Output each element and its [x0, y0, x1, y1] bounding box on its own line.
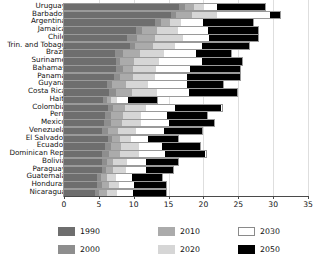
bar-segment-1990[interactable]: [64, 151, 102, 157]
bar-segment-2030[interactable]: [156, 66, 190, 72]
legend-item-1990[interactable]: 1990: [58, 226, 100, 237]
bar-segment-2020[interactable]: [120, 151, 139, 157]
bar-segment-2020[interactable]: [194, 4, 204, 10]
bar-segment-2030[interactable]: [181, 19, 203, 25]
stacked-bar[interactable]: [64, 151, 206, 157]
bar-segment-1990[interactable]: [64, 35, 127, 41]
bar-segment-2010[interactable]: [113, 105, 125, 111]
bar-segment-2020[interactable]: [120, 136, 131, 142]
stacked-bar[interactable]: [64, 12, 280, 18]
bar-segment-2020[interactable]: [126, 81, 148, 87]
bar-segment-1990[interactable]: [64, 66, 116, 72]
stacked-bar[interactable]: [64, 66, 240, 72]
stacked-bar[interactable]: [64, 89, 237, 95]
bar-segment-2000[interactable]: [109, 89, 117, 95]
bar-segment-2010[interactable]: [106, 167, 113, 173]
bar-segment-1990[interactable]: [64, 112, 105, 118]
bar-segment-2010[interactable]: [123, 66, 133, 72]
bar-segment-2030[interactable]: [126, 167, 146, 173]
bar-segment-1990[interactable]: [64, 136, 108, 142]
bar-segment-2020[interactable]: [109, 182, 119, 188]
bar-segment-2050[interactable]: [132, 174, 162, 180]
bar-segment-1990[interactable]: [64, 174, 97, 180]
bar-segment-2050[interactable]: [169, 120, 214, 126]
bar-segment-2030[interactable]: [117, 97, 128, 103]
bar-segment-2020[interactable]: [133, 74, 155, 80]
stacked-bar[interactable]: [64, 128, 202, 134]
stacked-bar[interactable]: [64, 81, 223, 87]
bar-segment-1990[interactable]: [64, 105, 108, 111]
bar-segment-2050[interactable]: [190, 66, 239, 72]
bar-segment-2050[interactable]: [270, 12, 280, 18]
stacked-bar[interactable]: [64, 174, 162, 180]
bar-segment-2030[interactable]: [148, 81, 186, 87]
bar-segment-2030[interactable]: [131, 136, 148, 142]
bar-segment-2010[interactable]: [112, 136, 120, 142]
bar-segment-2010[interactable]: [107, 159, 114, 165]
legend-item-2020[interactable]: 2020: [158, 244, 200, 255]
stacked-bar[interactable]: [64, 143, 200, 149]
bar-segment-2030[interactable]: [204, 4, 217, 10]
bar-segment-2010[interactable]: [123, 50, 140, 56]
bar-segment-2050[interactable]: [187, 81, 223, 87]
bar-segment-2020[interactable]: [155, 35, 183, 41]
bar-segment-2050[interactable]: [164, 128, 202, 134]
bar-segment-1990[interactable]: [64, 167, 102, 173]
bar-segment-2050[interactable]: [209, 35, 258, 41]
bar-segment-1990[interactable]: [64, 74, 114, 80]
bar-segment-2050[interactable]: [128, 97, 157, 103]
bar-segment-2050[interactable]: [196, 50, 230, 56]
stacked-bar[interactable]: [64, 35, 258, 41]
bar-segment-2050[interactable]: [146, 159, 179, 165]
bar-segment-2020[interactable]: [132, 89, 157, 95]
stacked-bar[interactable]: [64, 182, 166, 188]
bar-segment-2030[interactable]: [175, 43, 202, 49]
bar-segment-2010[interactable]: [111, 120, 121, 126]
bar-segment-2010[interactable]: [161, 19, 170, 25]
bar-segment-2000[interactable]: [104, 120, 111, 126]
bar-segment-1990[interactable]: [64, 143, 105, 149]
stacked-bar[interactable]: [64, 74, 240, 80]
bar-segment-2010[interactable]: [102, 182, 109, 188]
stacked-bar[interactable]: [64, 58, 242, 64]
bar-segment-2020[interactable]: [134, 58, 159, 64]
stacked-bar[interactable]: [64, 136, 178, 142]
bar-segment-2010[interactable]: [120, 74, 133, 80]
bar-segment-2000[interactable]: [115, 50, 123, 56]
bar-segment-2050[interactable]: [203, 19, 253, 25]
bar-segment-2050[interactable]: [146, 167, 174, 173]
stacked-bar[interactable]: [64, 50, 231, 56]
bar-segment-2020[interactable]: [113, 159, 126, 165]
bar-segment-2020[interactable]: [122, 120, 142, 126]
bar-segment-2030[interactable]: [159, 58, 202, 64]
bar-segment-1990[interactable]: [64, 159, 102, 165]
bar-segment-2020[interactable]: [123, 112, 141, 118]
bar-segment-2050[interactable]: [202, 43, 249, 49]
bar-segment-2050[interactable]: [162, 143, 200, 149]
bar-segment-1990[interactable]: [64, 120, 104, 126]
bar-segment-2050[interactable]: [167, 112, 207, 118]
bar-segment-2020[interactable]: [113, 167, 126, 173]
stacked-bar[interactable]: [64, 4, 265, 10]
bar-segment-2020[interactable]: [107, 174, 117, 180]
bar-segment-1990[interactable]: [64, 19, 155, 25]
bar-segment-2030[interactable]: [139, 143, 163, 149]
bar-segment-2020[interactable]: [125, 105, 146, 111]
bar-segment-2010[interactable]: [111, 112, 122, 118]
bar-segment-2030[interactable]: [146, 105, 175, 111]
bar-segment-2030[interactable]: [141, 120, 169, 126]
bar-segment-2010[interactable]: [108, 128, 118, 134]
stacked-bar[interactable]: [64, 159, 178, 165]
bar-segment-2030[interactable]: [119, 182, 134, 188]
bar-segment-2030[interactable]: [139, 151, 165, 157]
bar-segment-2050[interactable]: [134, 182, 166, 188]
bar-segment-2030[interactable]: [217, 12, 270, 18]
bar-segment-2010[interactable]: [137, 35, 155, 41]
stacked-bar[interactable]: [64, 27, 258, 33]
bar-segment-1990[interactable]: [64, 182, 97, 188]
bar-segment-2010[interactable]: [116, 89, 131, 95]
stacked-bar[interactable]: [64, 97, 157, 103]
bar-segment-1990[interactable]: [64, 12, 171, 18]
stacked-bar[interactable]: [64, 167, 173, 173]
bar-segment-2050[interactable]: [208, 27, 257, 33]
